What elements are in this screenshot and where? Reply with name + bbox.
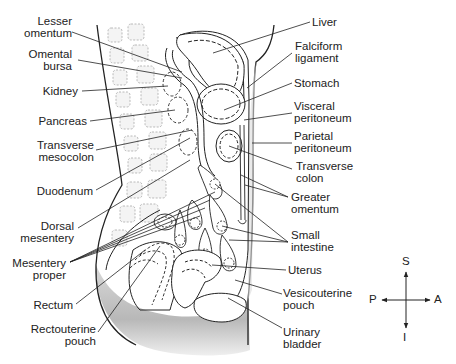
label-rectum: Rectum: [10, 299, 73, 311]
label-dorsal-mesentery: Dorsal mesentery: [10, 220, 74, 244]
kidney: [163, 72, 181, 96]
rectum: [130, 243, 174, 305]
label-parietal-peritoneum: Parietal peritoneum: [294, 130, 352, 154]
label-mesentery-proper: Mesentery proper: [0, 257, 66, 281]
label-transverse-mesocolon: Transverse mesocolon: [20, 139, 94, 163]
label-greater-omentum: Greater omentum: [291, 191, 339, 215]
compass-inferior-label: I: [403, 331, 406, 343]
label-uterus: Uterus: [288, 264, 322, 276]
label-visceral-peritoneum: Visceral peritoneum: [294, 100, 352, 124]
label-kidney: Kidney: [20, 85, 78, 97]
label-pancreas: Pancreas: [20, 115, 87, 127]
compass-superior-label: S: [402, 255, 410, 267]
vertebral-column: [108, 24, 167, 246]
label-liver: Liver: [312, 16, 337, 28]
label-lesser-omentum: Lesser omentum: [20, 15, 72, 39]
compass-anterior-label: A: [434, 293, 442, 305]
label-stomach: Stomach: [294, 77, 339, 89]
duodenum: [179, 129, 197, 155]
label-small-intestine: Small intestine: [291, 229, 334, 253]
orientation-compass: [382, 272, 430, 328]
label-vesicouterine-pouch: Vesicouterine pouch: [283, 287, 352, 311]
label-omental-bursa: Omental bursa: [20, 48, 72, 72]
label-rectouterine-pouch: Rectouterine pouch: [10, 323, 96, 347]
label-duodenum: Duodenum: [20, 185, 93, 197]
stomach: [197, 84, 245, 124]
label-urinary-bladder: Urinary bladder: [283, 326, 321, 350]
label-falciform-ligament: Falciform ligament: [295, 40, 342, 64]
pancreas: [168, 97, 188, 123]
urinary-bladder: [194, 293, 246, 322]
label-transverse-colon: Transverse colon: [296, 160, 353, 184]
compass-posterior-label: P: [369, 293, 377, 305]
